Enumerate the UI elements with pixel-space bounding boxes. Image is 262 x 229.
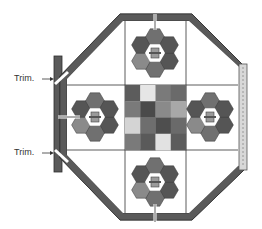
trim-arrowhead-top <box>50 77 54 81</box>
face-icon <box>149 48 161 58</box>
checker-cell <box>140 101 156 118</box>
checker-cell <box>171 85 187 102</box>
checker-cell <box>156 134 172 151</box>
checkerboard <box>125 85 186 150</box>
checker-cell <box>156 101 172 118</box>
checker-cell <box>171 118 187 135</box>
checker-cell <box>140 118 156 135</box>
checker-cell <box>125 118 141 135</box>
ship-icon <box>89 112 101 122</box>
checker-cell <box>171 101 187 118</box>
trim-arrowhead-bottom <box>50 151 54 155</box>
checker-cell <box>125 85 141 102</box>
checker-cell <box>156 118 172 135</box>
checker-cell <box>140 85 156 102</box>
board-diagram <box>0 0 262 229</box>
trim-label-bottom: Trim. <box>14 147 34 157</box>
checker-cell <box>125 101 141 118</box>
trim-label-top: Trim. <box>14 73 34 83</box>
checker-cell <box>156 85 172 102</box>
checker-cell <box>140 134 156 151</box>
checker-cell <box>171 134 187 151</box>
checker-cell <box>125 134 141 151</box>
rocket-icon <box>149 177 161 187</box>
robot-icon <box>204 112 216 122</box>
